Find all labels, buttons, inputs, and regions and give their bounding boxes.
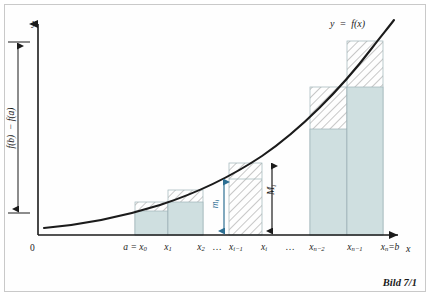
bar-group-4 bbox=[347, 41, 383, 235]
bar-fill-4 bbox=[347, 87, 383, 235]
tick-label-xn-minus-1: xn−1 bbox=[347, 243, 362, 253]
upper-sum-label: Mi bbox=[266, 185, 277, 195]
lower-sum-subscript: i bbox=[213, 200, 220, 202]
function-label-y: y bbox=[330, 18, 334, 29]
tick-label-xn: xn=b bbox=[381, 243, 400, 253]
lower-sum-label: mi bbox=[211, 200, 221, 209]
tick-label-xn-minus-2: xn−2 bbox=[309, 243, 324, 253]
function-label-fx: f(x) bbox=[351, 18, 365, 29]
tick-label-x1: x1 bbox=[164, 243, 172, 253]
tick-label-xi-minus-1: xi−1 bbox=[229, 243, 243, 253]
range-label-minus: − bbox=[6, 124, 16, 130]
origin-label: 0 bbox=[30, 243, 35, 253]
range-label-right: f(a) bbox=[6, 108, 16, 122]
riemann-sum-plot bbox=[0, 0, 431, 298]
range-bracket-label: f(b) − f(a) bbox=[7, 108, 17, 149]
upper-sum-letter: M bbox=[265, 187, 276, 195]
tick-label-x0: a = x0 bbox=[123, 243, 146, 253]
range-label-left: f(b) bbox=[6, 135, 16, 149]
tick-label-ellipsis-2: … bbox=[285, 243, 295, 253]
bar-fill-3 bbox=[310, 129, 347, 235]
upper-sum-subscript: i bbox=[270, 185, 277, 187]
figure-caption: Bild 7/1 bbox=[383, 277, 417, 288]
bar-group-3 bbox=[310, 87, 347, 235]
lower-sum-letter: m bbox=[210, 201, 220, 208]
tick-label-ellipsis-1: … bbox=[212, 243, 222, 253]
tick-label-xi: xi bbox=[261, 243, 267, 253]
figure-page: y x 0 y = f(x) f(b) − f(a) mi Mi a = x0 … bbox=[0, 0, 431, 298]
function-label-eq: = bbox=[339, 18, 346, 29]
y-axis-label: y bbox=[32, 17, 36, 28]
bar-fill-1 bbox=[168, 202, 203, 235]
tick-label-x2: x2 bbox=[197, 243, 205, 253]
bar-fill-0 bbox=[135, 211, 168, 235]
x-axis-label: x bbox=[406, 243, 410, 254]
function-label: y = f(x) bbox=[330, 18, 365, 29]
